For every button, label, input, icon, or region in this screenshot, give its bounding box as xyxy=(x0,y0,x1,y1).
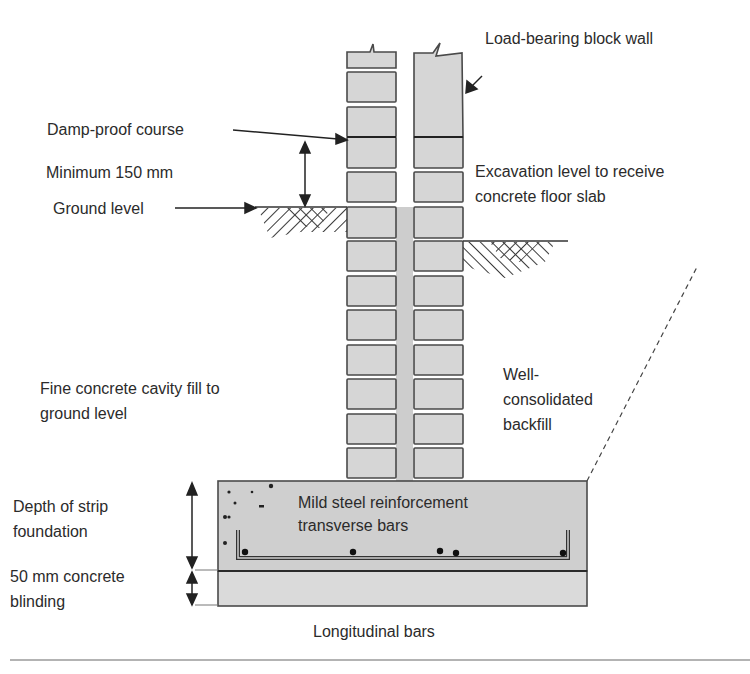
wall-leader xyxy=(472,76,482,86)
concrete-blinding xyxy=(218,571,587,606)
outer-leaf-blocks xyxy=(414,43,463,478)
depth-arrow-down xyxy=(187,557,197,568)
backfill-slope-line xyxy=(587,265,698,481)
label-ground-level: Ground level xyxy=(53,199,144,219)
label-longitudinal-bars: Longitudinal bars xyxy=(313,622,435,642)
label-backfill-2: consolidated xyxy=(503,390,593,410)
ground-arrowhead xyxy=(245,203,256,213)
cavity-fill xyxy=(396,207,413,481)
label-damp-proof-course: Damp-proof course xyxy=(47,120,184,140)
blinding-arrow-up xyxy=(187,572,197,583)
label-excavation-1: Excavation level to receive xyxy=(475,162,664,182)
label-blinding-2: blinding xyxy=(10,592,65,612)
label-excavation-2: concrete floor slab xyxy=(475,187,606,207)
label-depth-1: Depth of strip xyxy=(13,497,108,517)
label-reinforcement-1: Mild steel reinforcement xyxy=(298,493,468,513)
depth-arrow-up xyxy=(187,483,197,495)
label-cavity-fill-1: Fine concrete cavity fill to xyxy=(40,379,220,399)
dpc-leader xyxy=(233,130,338,139)
label-minimum-150: Minimum 150 mm xyxy=(46,163,173,183)
label-backfill-1: Well- xyxy=(503,365,539,385)
dim-arrow-up xyxy=(300,142,310,153)
blinding-arrow-down xyxy=(187,594,197,605)
label-load-bearing-wall: Load-bearing block wall xyxy=(485,29,653,49)
inner-leaf-blocks xyxy=(347,44,396,478)
label-depth-2: foundation xyxy=(13,522,88,542)
dpc-arrowhead xyxy=(336,134,347,144)
label-reinforcement-2: transverse bars xyxy=(298,516,408,536)
dim-arrow-down xyxy=(300,195,310,206)
label-cavity-fill-2: ground level xyxy=(40,404,127,424)
label-blinding-1: 50 mm concrete xyxy=(10,567,125,587)
label-backfill-3: backfill xyxy=(503,415,552,435)
